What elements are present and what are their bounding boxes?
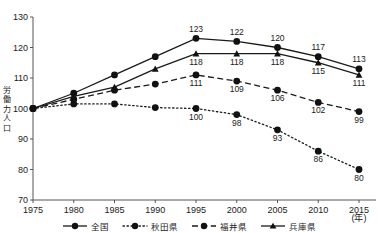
legend-item-hyogo[interactable]: 兵庫県 <box>260 220 316 232</box>
y-tick-label: 100 <box>13 104 28 114</box>
data-point-label: 117 <box>311 42 325 52</box>
data-point-label: 115 <box>311 66 325 76</box>
x-tick-label: 1985 <box>104 205 124 215</box>
x-tick-label: 1990 <box>145 205 165 215</box>
data-point-label: 86 <box>314 154 324 164</box>
legend-swatch-akita <box>122 221 148 231</box>
data-point-label: 100 <box>189 112 203 122</box>
x-tick-label: 1995 <box>186 205 206 215</box>
y-tick-label: 130 <box>13 12 28 22</box>
data-point-marker <box>111 101 118 108</box>
data-point-label: 118 <box>189 57 203 67</box>
data-point-marker <box>356 65 363 72</box>
y-axis-label-char: 人 <box>1 114 13 123</box>
legend-label-hyogo: 兵庫県 <box>289 220 316 232</box>
legend-item-fukui[interactable]: 福井県 <box>191 220 247 232</box>
chart-legend: 全国秋田県福井県兵庫県 <box>0 218 378 233</box>
data-point-label: 120 <box>270 33 284 43</box>
data-point-marker <box>30 105 37 112</box>
top-note <box>120 0 290 7</box>
legend-label-zenkoku: 全国 <box>91 220 109 232</box>
legend-label-akita: 秋田県 <box>151 220 178 232</box>
line-chart-plot: 7080901001101201301975198019851990199520… <box>0 0 378 233</box>
x-tick-label: 1975 <box>23 205 43 215</box>
data-point-marker <box>274 44 281 51</box>
data-point-marker <box>152 81 159 88</box>
data-point-label: 118 <box>230 57 244 67</box>
data-point-label: 109 <box>230 84 244 94</box>
x-tick-label: 2000 <box>227 205 247 215</box>
data-point-marker <box>315 53 322 60</box>
data-point-marker <box>111 72 118 79</box>
data-point-marker <box>193 35 200 42</box>
data-point-marker <box>233 38 240 45</box>
y-axis-label-char: 力 <box>1 105 13 114</box>
y-axis-label-char: 労 <box>1 86 13 95</box>
legend-item-zenkoku[interactable]: 全国 <box>62 220 109 232</box>
data-point-marker <box>152 104 159 111</box>
data-point-label: 118 <box>271 57 285 67</box>
data-point-marker <box>152 53 159 60</box>
data-point-marker <box>111 87 118 94</box>
data-point-label: 80 <box>354 173 364 183</box>
legend-swatch-fukui <box>191 221 217 231</box>
x-tick-label: 1980 <box>64 205 84 215</box>
x-tick-label: 2005 <box>267 205 287 215</box>
data-point-label: 93 <box>273 133 283 143</box>
legend-swatch-hyogo <box>260 221 286 231</box>
data-point-label: 106 <box>270 93 284 103</box>
data-point-label: 111 <box>353 78 366 88</box>
legend-swatch-zenkoku <box>62 221 88 231</box>
chart-container: 労働力人口 7080901001101201301975198019851990… <box>0 0 378 233</box>
y-tick-label: 80 <box>18 165 28 175</box>
legend-item-akita[interactable]: 秋田県 <box>122 220 178 232</box>
y-axis-label: 労働力人口 <box>1 86 13 133</box>
y-tick-label: 120 <box>13 43 28 53</box>
legend-label-fukui: 福井県 <box>220 220 247 232</box>
y-tick-label: 110 <box>14 73 28 83</box>
x-tick-label: 2010 <box>308 205 328 215</box>
data-point-label: 98 <box>232 118 242 128</box>
data-point-label: 99 <box>354 115 364 125</box>
data-point-label: 122 <box>230 27 244 37</box>
data-point-label: 102 <box>311 105 325 115</box>
data-point-marker <box>70 101 77 108</box>
y-tick-label: 90 <box>18 134 28 144</box>
data-point-label: 113 <box>352 54 366 64</box>
data-point-label: 123 <box>189 24 203 34</box>
y-axis-label-char: 働 <box>1 95 13 104</box>
data-point-label: 111 <box>190 78 203 88</box>
y-axis-label-char: 口 <box>1 124 13 133</box>
